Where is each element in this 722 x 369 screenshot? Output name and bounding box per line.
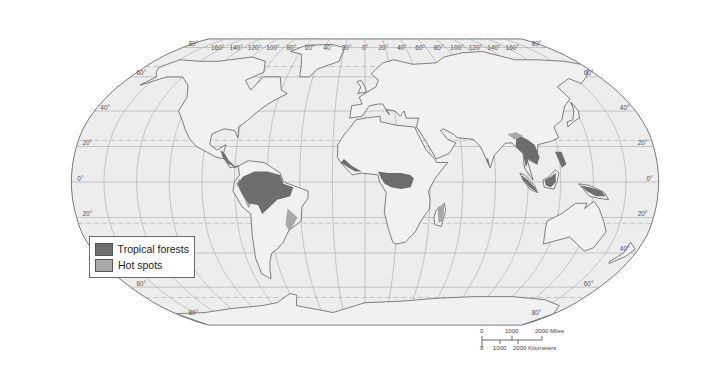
meridian-label: 100° (266, 44, 280, 51)
parallel-label-right: 80° (532, 40, 542, 47)
parallel-label-right: 20° (638, 210, 648, 217)
parallel-label-right: 40° (620, 245, 630, 252)
parallel-label-right: 80° (532, 309, 542, 316)
parallel-label-right: 60° (584, 280, 594, 287)
scale-km-1000: 1000 (493, 345, 506, 351)
scale-miles-2000: 2000 Miles (535, 328, 564, 334)
meridian-label: 20° (342, 44, 352, 51)
meridian-label: 140° (487, 44, 501, 51)
meridian-label: 20° (378, 44, 388, 51)
legend-label: Hot spots (118, 259, 162, 271)
parallel-label-left: 60° (136, 280, 146, 287)
parallel-label-left: 80° (189, 309, 199, 316)
parallel-label-left: 80° (189, 40, 199, 47)
parallel-label-left: 20° (83, 210, 93, 217)
parallel-label-right: 40° (620, 104, 630, 111)
meridian-label: 140° (229, 44, 243, 51)
parallel-label-right: 20° (638, 139, 648, 146)
parallel-label-left: 60° (136, 69, 146, 76)
world-map: 160°140°120°100°80°60°40°20°0°20°40°60°8… (0, 0, 722, 369)
meridian-label: 160° (506, 44, 520, 51)
legend-item-tropical-forests: Tropical forests (95, 241, 189, 257)
parallel-label-left: 40° (100, 104, 110, 111)
meridian-label: 80° (286, 44, 296, 51)
hot-spots-swatch (95, 259, 113, 272)
meridian-label: 40° (323, 44, 333, 51)
meridian-label: 60° (305, 44, 315, 51)
parallel-label-left: 0° (77, 175, 84, 182)
meridian-label: 0° (362, 44, 369, 51)
scale-km-2000: 2000 Kilometers (513, 345, 556, 351)
meridian-label: 160° (211, 44, 225, 51)
meridian-label: 40° (397, 44, 407, 51)
legend-item-hot-spots: Hot spots (95, 257, 189, 273)
meridian-label: 120° (469, 44, 483, 51)
meridian-label: 120° (248, 44, 262, 51)
scale-miles-0: 0 (480, 328, 483, 334)
scale-miles-1000: 1000 (505, 328, 518, 334)
parallel-label-right: 0° (646, 175, 653, 182)
map-legend: Tropical forests Hot spots (89, 236, 195, 278)
parallel-label-left: 20° (83, 139, 93, 146)
parallel-label-right: 60° (584, 69, 594, 76)
meridian-label: 80° (434, 44, 444, 51)
scale-bar: 0 1000 2000 Miles 0 1000 2000 Kilometers (480, 328, 600, 358)
legend-label: Tropical forests (118, 243, 189, 255)
meridian-label: 60° (415, 44, 425, 51)
scale-km-0: 0 (480, 345, 483, 351)
tropical-forests-swatch (95, 243, 113, 256)
meridian-label: 100° (450, 44, 464, 51)
